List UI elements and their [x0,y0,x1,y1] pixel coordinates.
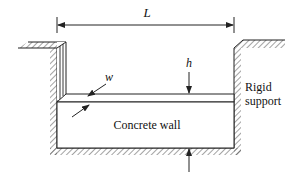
length-dimension: L [57,5,234,33]
length-label: L [142,5,150,20]
floor-hatch [50,148,241,155]
vertical-plate [57,42,66,100]
width-label: w [105,70,113,84]
floor-support [50,148,241,155]
wall-label: Concrete wall [114,118,182,132]
rigid-support-label: Rigid support [245,80,282,108]
height-label: h [186,56,192,70]
concrete-wall-diagram: Concrete wall L h w Rigid support [0,0,290,180]
rigid-support-label-line2: support [245,94,282,108]
concrete-wall: Concrete wall [57,94,234,148]
right-wall-hatch [234,48,241,155]
wall-top-plate [57,94,234,102]
rigid-support-label-line1: Rigid [245,80,272,94]
left-wall-hatch [50,48,57,155]
